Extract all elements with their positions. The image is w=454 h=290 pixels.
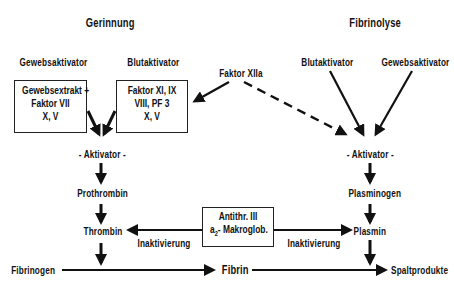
box-line: Faktor VII — [22, 97, 79, 110]
title-gerinnung: Gerinnung — [86, 16, 135, 30]
box-line: Gewebsextrakt + — [22, 84, 79, 97]
inhibitor-suffix: - Makroglob. — [218, 223, 268, 235]
arrow-xiia-to-fibrinolyse — [244, 82, 345, 134]
box-line: X, V — [124, 110, 180, 123]
label-fibrin: Fibrin — [222, 263, 249, 277]
box-inhibitors: Antithr. III a2- Makroglob. — [202, 207, 274, 247]
box-line: Faktor XI, IX — [124, 84, 180, 97]
label-blutaktivator-left: Blutaktivator — [127, 56, 179, 68]
box-line: X, V — [22, 110, 79, 123]
arrow-blut-to-aktivator-right — [330, 71, 363, 134]
label-faktor-xiia: Faktor XIIa — [219, 67, 263, 79]
box-gewebsextrakt: Gewebsextrakt + Faktor VII X, V — [14, 80, 87, 133]
arrow-blut-to-aktivator — [104, 111, 115, 134]
label-inaktivierung-right: Inaktivierung — [287, 237, 340, 249]
label-gewebsaktivator-left: Gewebsaktivator — [20, 56, 88, 68]
label-prothrombin: Prothrombin — [77, 187, 128, 199]
inhibitor-line-1: Antithr. III — [210, 210, 266, 223]
label-plasmin: Plasmin — [354, 225, 387, 237]
box-blutfaktoren: Faktor XI, IX VIII, PF 3 X, V — [116, 80, 188, 133]
label-aktivator-right: - Aktivator - — [347, 148, 394, 160]
label-fibrinogen: Fibrinogen — [11, 264, 55, 276]
title-fibrinolyse: Fibrinolyse — [349, 16, 401, 30]
label-thrombin: Thrombin — [84, 225, 123, 237]
arrow-gewebe-to-aktivator — [88, 111, 99, 134]
inhibitor-line-2: a2- Makroglob. — [210, 223, 266, 240]
label-inaktivierung-left: Inaktivierung — [137, 237, 190, 249]
label-spaltprodukte: Spaltprodukte — [391, 264, 448, 276]
label-plasminogen: Plasminogen — [348, 187, 401, 199]
label-gewebsaktivator-right: Gewebsaktivator — [382, 56, 450, 68]
label-aktivator-left: - Aktivator - — [79, 148, 126, 160]
arrow-xiia-to-blut — [195, 82, 229, 101]
label-blutaktivator-right: Blutaktivator — [301, 56, 353, 68]
arrow-gewebe-to-aktivator-right — [376, 71, 412, 134]
box-line: VIII, PF 3 — [124, 97, 180, 110]
